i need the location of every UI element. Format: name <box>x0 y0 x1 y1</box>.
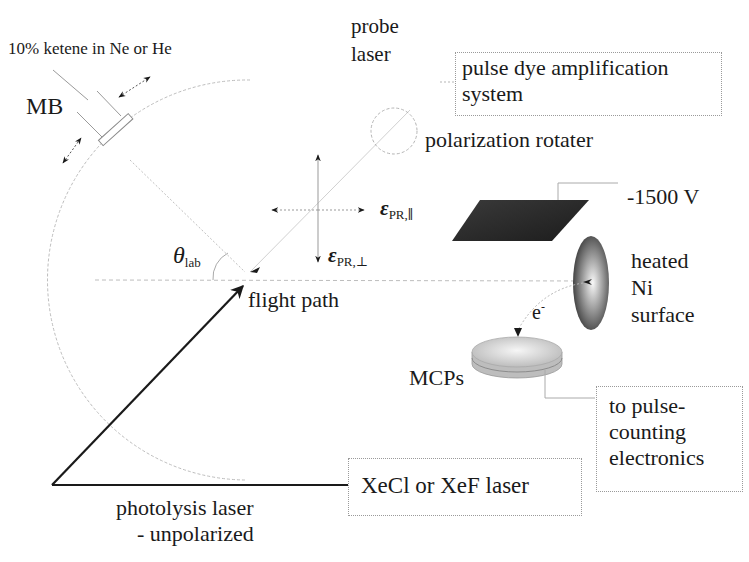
rotation-arrow-bottom <box>63 138 81 163</box>
eps-symbol: ε <box>380 196 389 220</box>
repeller-plate-icon <box>452 200 589 241</box>
theta-subscript: lab <box>185 255 201 270</box>
polarization-rotater-icon <box>371 108 417 154</box>
photolysis-label-line2: - unpolarized <box>137 523 254 545</box>
electronics-label-line2: counting <box>609 421 742 443</box>
electron-superscript: - <box>541 300 545 314</box>
theta-angle-arc <box>213 253 228 280</box>
eps-perp-label: εPR,⊥ <box>328 245 368 268</box>
gas-mixture-label: 10% ketene in Ne or He <box>8 40 172 57</box>
eps-perp-subscript: PR,⊥ <box>337 254 368 269</box>
ni-surface-label-line3: surface <box>631 304 695 326</box>
electron-symbol: e <box>532 301 541 323</box>
ni-surface-label-line2: Ni <box>631 277 653 299</box>
rotation-arrow-top <box>119 77 150 97</box>
eps-parallel-label: εPR,∥ <box>380 198 414 221</box>
eps-symbol: ε <box>328 243 337 267</box>
ni-surface-icon <box>573 236 609 330</box>
pdas-label-line2: system <box>462 83 721 105</box>
electronics-label-line3: electronics <box>609 447 742 469</box>
probe-laser-label-line1: probe <box>351 16 399 37</box>
molecular-beam-label: MB <box>26 94 63 118</box>
reference-axis <box>95 280 590 281</box>
ni-surface-label-line1: heated <box>631 250 688 272</box>
electronics-label-line1: to pulse- <box>609 395 742 417</box>
eps-parallel-subscript: PR,∥ <box>389 207 414 222</box>
excimer-laser-label: XeCl or XeF laser <box>361 474 581 497</box>
pdas-label-line1: pulse dye amplification <box>462 57 721 79</box>
rotation-arc <box>47 80 250 480</box>
polarization-rotater-label: polarization rotater <box>425 129 593 151</box>
mcps-label: MCPs <box>409 367 464 389</box>
electron-label: e- <box>532 301 545 322</box>
pulse-dye-amplification-box: pulse dye amplification system <box>455 52 722 116</box>
electronics-box: to pulse- counting electronics <box>596 386 743 492</box>
flight-path-label: flight path <box>248 289 339 311</box>
mcp-detector-icon <box>472 337 562 378</box>
theta-lab-label: θlab <box>173 243 201 269</box>
excimer-laser-box: XeCl or XeF laser <box>348 458 582 516</box>
photolysis-label-line1: photolysis laser <box>116 497 254 519</box>
molecular-beam-nozzle-icon <box>53 70 133 146</box>
probe-laser-label-line2: laser <box>351 44 391 65</box>
voltage-label: -1500 V <box>627 186 699 208</box>
photolysis-laser-beam <box>52 286 243 485</box>
theta-symbol: θ <box>173 242 185 268</box>
